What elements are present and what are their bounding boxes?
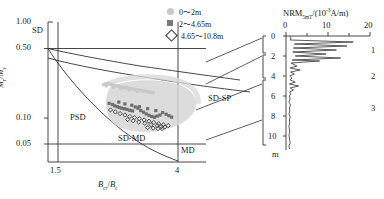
depth-tick-4: 4 [271,72,275,81]
scatter-point [123,102,126,105]
y-tick-100: 1.00 [16,17,31,26]
day-plot-y-ticks [44,49,48,145]
y-axis-title-s: s [1,67,7,69]
scatter-point [145,112,148,115]
scatter-point [170,116,173,119]
scatter-point [128,109,131,112]
y-axis-title-slash: / [0,76,5,78]
scatter-point [165,113,168,116]
scatter-point [161,111,164,114]
bracket-zone-2 [263,55,266,78]
y-tick-010: 0.10 [16,113,31,122]
scatter-point [139,109,142,112]
nrm-x-axis [286,32,370,36]
scatter-point [135,89,139,93]
scatter-point [125,108,128,111]
legend-item-1: 2～4.65m [167,17,223,29]
zone-label-2: 2 [371,72,375,81]
scatter-point [151,91,155,95]
filled-square-icon [167,20,173,26]
region-label-sd: SD [32,26,43,35]
scatter-point [153,116,156,119]
nrm-title-sub: 5mT [302,14,312,20]
depth-unit-label: m [272,150,279,159]
region-label-sd-sp: SD-SP [208,94,231,103]
scatter-point [117,100,120,103]
scatter-point [167,114,170,117]
zone-label-1: 1 [371,46,375,55]
scatter-point [138,105,141,108]
x-tick-4: 4 [175,166,179,175]
legend-label-1: 2～4.65m [179,18,211,29]
y-axis-title-r: r [1,79,7,81]
legend-label-2: 4.65～10.8m [181,30,223,41]
depth-tick-8: 8 [271,112,275,121]
scatter-point [108,102,111,105]
legend-item-2: 4.65～10.8m [167,29,223,41]
region-label-sd-md: SD-MD [118,134,145,143]
nrm-curve-path [289,36,353,149]
bracket-zone-3 [263,80,266,145]
nrm-x-tick-10: 10 [322,21,331,30]
scatter-point [147,114,150,117]
legend: 0～2m 2～4.65m 4.65～10.8m [167,5,223,41]
region-label-md: MD [181,146,195,155]
scatter-point [156,114,159,117]
y-tick-050: 0.50 [16,43,31,52]
y-axis-title: Mr/Ms [0,67,7,88]
scatter-point [111,85,115,89]
x-axis-title-c: c [115,185,117,191]
scatter-point [154,109,157,112]
scatter-point [142,111,145,114]
nrm-intensity-curve [289,36,353,149]
y-axis-title-m: M [0,81,5,88]
scatter-point [127,88,131,92]
scatter-point [131,109,134,112]
region-label-psd: PSD [70,113,86,122]
bracket-zone-1 [263,36,266,53]
scatter-point [119,87,123,91]
nrm-x-tick-0: 0 [283,21,287,30]
depth-tick-0: 0 [271,32,275,41]
depth-tick-10: 10 [268,132,277,141]
nrm-title-open: /(10 [312,8,326,18]
nrm-title-main: NRM [283,8,302,18]
y-tick-005: 0.05 [16,139,31,148]
nrm-title-close: A/m) [330,8,348,18]
scatter-point [134,105,137,108]
depth-tick-6: 6 [271,92,275,101]
open-diamond-icon [165,29,178,42]
x-tick-15: 1.5 [50,166,61,175]
filled-circle-icon [167,8,174,15]
y-axis-title-m2: M [0,69,5,76]
scatter-point [130,104,133,107]
depth-tick-2: 2 [271,52,275,61]
scatter-point [123,107,126,110]
scatter-point [120,107,123,110]
figure-root: 1.00 0.50 0.10 0.05 1.5 4 Mr/Ms Bcr/Bc S… [0,0,384,199]
scatter-point [150,115,153,118]
legend-label-0: 0～2m [179,6,201,17]
x-axis-title: Bcr/Bc [98,180,118,191]
depth-zone-brackets [263,36,266,145]
scatter-point [104,84,108,88]
scatter-point [158,113,161,116]
nrm-depth-axis [283,36,286,150]
zone-label-3: 3 [371,104,375,113]
nrm-x-tick-20: 20 [364,21,373,30]
scatter-point [146,107,149,110]
legend-item-0: 0～2m [167,5,223,17]
scatter-point [113,104,116,107]
nrm-panel-title: NRM5mT/(10-3A/m) [283,8,348,20]
